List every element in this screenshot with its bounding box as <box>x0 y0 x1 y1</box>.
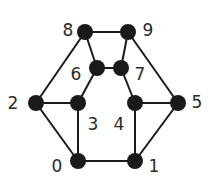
node-label-9: 9 <box>143 20 154 40</box>
node-6 <box>89 60 105 76</box>
node-3 <box>70 95 86 111</box>
node-5 <box>170 95 186 111</box>
node-label-4: 4 <box>114 114 125 134</box>
node-label-5: 5 <box>192 92 203 112</box>
node-label-6: 6 <box>71 64 82 84</box>
node-label-0: 0 <box>52 156 63 176</box>
graph-edges <box>36 32 178 161</box>
node-1 <box>127 153 143 169</box>
node-label-3: 3 <box>88 114 99 134</box>
node-8 <box>77 24 93 40</box>
edge-5-1 <box>135 103 178 161</box>
node-7 <box>113 60 129 76</box>
node-2 <box>28 95 44 111</box>
edge-2-0 <box>36 103 78 161</box>
node-9 <box>120 24 136 40</box>
node-4 <box>127 95 143 111</box>
node-label-1: 1 <box>149 156 160 176</box>
graph-nodes <box>28 24 186 169</box>
node-label-2: 2 <box>8 93 19 113</box>
graph-diagram: 0123456789 <box>0 0 217 183</box>
node-0 <box>70 153 86 169</box>
node-label-8: 8 <box>63 20 74 40</box>
node-label-7: 7 <box>135 64 146 84</box>
